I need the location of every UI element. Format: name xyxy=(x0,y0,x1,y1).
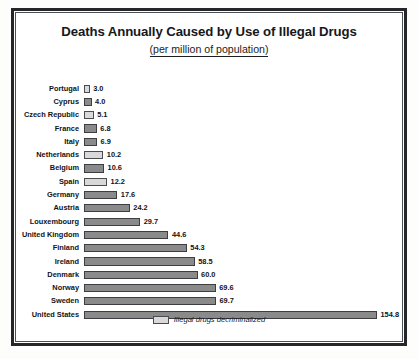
bar xyxy=(84,178,107,186)
category-label: Denmark xyxy=(18,271,84,279)
legend-swatch-decriminalized xyxy=(153,316,169,324)
bar-track: 24.2 xyxy=(84,202,400,215)
bar-value-label: 3.0 xyxy=(93,85,103,93)
chart-title: Deaths Annually Caused by Use of Illegal… xyxy=(18,24,400,40)
bar-value-label: 10.6 xyxy=(108,164,122,172)
bar xyxy=(84,244,187,252)
bar xyxy=(84,151,103,159)
category-label: Italy xyxy=(18,138,84,146)
bar-row: Spain12.2 xyxy=(18,175,400,188)
bar-track: 60.0 xyxy=(84,268,400,281)
bar-track: 5.1 xyxy=(84,109,400,122)
bar-value-label: 5.1 xyxy=(97,111,107,119)
category-label: Austria xyxy=(18,204,84,212)
bar xyxy=(84,124,97,132)
bar-row: Finland54.3 xyxy=(18,242,400,255)
bar-row: Germany17.6 xyxy=(18,188,400,201)
bar xyxy=(84,257,195,265)
bar-row: Belgium10.6 xyxy=(18,162,400,175)
bar xyxy=(84,85,90,93)
bar-value-label: 29.7 xyxy=(144,218,158,226)
category-label: Sweden xyxy=(18,297,84,305)
bar xyxy=(84,98,92,106)
bar xyxy=(84,138,97,146)
bar-value-label: 58.5 xyxy=(198,258,212,266)
category-label: Belgium xyxy=(18,164,84,172)
bar-value-label: 6.8 xyxy=(100,125,110,133)
bar-row: Portugal3.0 xyxy=(18,82,400,95)
category-label: Spain xyxy=(18,178,84,186)
category-label: Finland xyxy=(18,244,84,252)
bar-value-label: 6.9 xyxy=(101,138,111,146)
bar-row: Netherlands10.2 xyxy=(18,148,400,161)
bar xyxy=(84,284,216,292)
bar-row: Austria24.2 xyxy=(18,202,400,215)
bar-value-label: 44.6 xyxy=(172,231,186,239)
bar-value-label: 4.0 xyxy=(95,98,105,106)
bar-value-label: 69.7 xyxy=(219,297,233,305)
chart-legend: Illegal drugs decriminalized xyxy=(18,315,400,324)
chart-subtitle: (per million of population) xyxy=(18,43,400,56)
bar-track: 69.6 xyxy=(84,281,400,294)
bar-row: Cyprus4.0 xyxy=(18,95,400,108)
bar-track: 17.6 xyxy=(84,188,400,201)
category-label: Ireland xyxy=(18,258,84,266)
chart-page: Deaths Annually Caused by Use of Illegal… xyxy=(0,0,418,359)
category-label: Louxembourg xyxy=(18,218,84,226)
bar-track: 6.8 xyxy=(84,122,400,135)
bar-value-label: 54.3 xyxy=(190,244,204,252)
chart-subtitle-text: (per million of population) xyxy=(150,43,269,57)
category-label: United Kingdom xyxy=(18,231,84,239)
bar xyxy=(84,164,104,172)
bar-track: 54.3 xyxy=(84,242,400,255)
category-label: Germany xyxy=(18,191,84,199)
bar xyxy=(84,218,140,226)
bar-value-label: 60.0 xyxy=(201,271,215,279)
title-block: Deaths Annually Caused by Use of Illegal… xyxy=(18,24,400,56)
category-label: Czech Republic xyxy=(18,111,84,119)
bar xyxy=(84,231,168,239)
bar xyxy=(84,111,94,119)
category-label: Norway xyxy=(18,284,84,292)
bar-row: Sweden69.7 xyxy=(18,295,400,308)
legend-label-decriminalized: Illegal drugs decriminalized xyxy=(174,315,266,324)
bar-track: 6.9 xyxy=(84,135,400,148)
bar-value-label: 10.2 xyxy=(107,151,121,159)
category-label: Cyprus xyxy=(18,98,84,106)
bar-row: Ireland58.5 xyxy=(18,255,400,268)
bar-track: 10.6 xyxy=(84,162,400,175)
bar-value-label: 24.2 xyxy=(133,204,147,212)
bar xyxy=(84,191,117,199)
bar-row: France6.8 xyxy=(18,122,400,135)
bar xyxy=(84,297,216,305)
bar-row: Denmark60.0 xyxy=(18,268,400,281)
bar-track: 29.7 xyxy=(84,215,400,228)
bar-track: 58.5 xyxy=(84,255,400,268)
bar-track: 69.7 xyxy=(84,295,400,308)
bar-value-label: 69.6 xyxy=(219,284,233,292)
bar-row: Norway69.6 xyxy=(18,281,400,294)
bar-row: Louxembourg29.7 xyxy=(18,215,400,228)
bar-row: Italy6.9 xyxy=(18,135,400,148)
bar-value-label: 17.6 xyxy=(121,191,135,199)
bar-track: 12.2 xyxy=(84,175,400,188)
bar-row: Czech Republic5.1 xyxy=(18,109,400,122)
category-label: France xyxy=(18,125,84,133)
bar xyxy=(84,271,198,279)
bar xyxy=(84,204,130,212)
bar-track: 44.6 xyxy=(84,228,400,241)
bar-row: United Kingdom44.6 xyxy=(18,228,400,241)
bar-plot-area: Portugal3.0Cyprus4.0Czech Republic5.1Fra… xyxy=(18,82,400,308)
bar-track: 3.0 xyxy=(84,82,400,95)
category-label: Portugal xyxy=(18,85,84,93)
bar-track: 4.0 xyxy=(84,95,400,108)
bar-value-label: 12.2 xyxy=(111,178,125,186)
category-label: Netherlands xyxy=(18,151,84,159)
bar-track: 10.2 xyxy=(84,148,400,161)
